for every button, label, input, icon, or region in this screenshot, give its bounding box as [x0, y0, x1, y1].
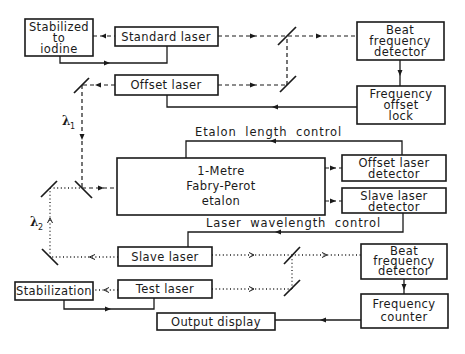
- block-frequency-counter: Frequency counter: [361, 294, 448, 328]
- svg-text:Output display: Output display: [171, 315, 261, 329]
- block-test-laser: Test laser: [118, 280, 212, 298]
- mirror-top-right: [280, 76, 296, 92]
- svg-text:Fabry-Perot: Fabry-Perot: [186, 179, 255, 193]
- link-beat-to-offsetlock: [398, 60, 403, 86]
- block-stabilized-to-iodine: Stabilized to iodine: [25, 19, 93, 56]
- etalon-length-control-label: Etalon length control: [195, 125, 342, 139]
- svg-text:Slave laser: Slave laser: [131, 250, 199, 264]
- link-offsetlock-to-offsetlaser: [167, 95, 357, 110]
- block-fabry-perot-etalon: 1-Metre Fabry-Perot etalon: [117, 158, 325, 215]
- svg-text:detector: detector: [374, 45, 426, 59]
- svg-text:detector: detector: [368, 167, 420, 181]
- beam-test-to-stabilization: [93, 288, 118, 293]
- svg-text:Frequency: Frequency: [372, 297, 435, 311]
- block-beat-frequency-detector-top: Beat frequency detector: [357, 22, 444, 60]
- svg-text:etalon: etalon: [202, 194, 241, 208]
- svg-text:1-Metre: 1-Metre: [197, 164, 244, 178]
- svg-text:counter: counter: [380, 310, 427, 324]
- link-standard-to-iodine: [93, 34, 115, 39]
- svg-text:detector: detector: [368, 200, 420, 214]
- svg-text:Stabilization: Stabilization: [16, 284, 92, 298]
- svg-text:1: 1: [70, 122, 75, 131]
- block-offset-laser-detector: Offset laser detector: [342, 155, 446, 181]
- svg-text:Test laser: Test laser: [135, 282, 194, 296]
- svg-text:iodine: iodine: [40, 42, 78, 56]
- beam-lambda1-to-etalon: [82, 186, 117, 191]
- block-output-display: Output display: [157, 313, 275, 330]
- block-slave-laser-detector: Slave laser detector: [342, 188, 446, 214]
- link-beat-to-counter: [402, 279, 407, 294]
- beam-offset-to-mirror: [82, 83, 115, 88]
- laser-wavelength-control-label: Laser wavelength control: [206, 216, 381, 230]
- block-slave-laser: Slave laser: [118, 247, 212, 266]
- block-stabilization: Stabilization: [15, 282, 93, 300]
- mirror-lambda2-lower: [42, 249, 58, 265]
- svg-text:2: 2: [38, 223, 43, 232]
- block-standard-laser: Standard laser: [115, 27, 218, 46]
- beam-splitter-etalon: [75, 181, 92, 198]
- beam-lambda1-down: [80, 85, 85, 188]
- svg-text:Standard laser: Standard laser: [121, 30, 211, 44]
- block-beat-frequency-detector-bottom: Beat frequency detector: [361, 244, 447, 279]
- lambda2-label: λ 2: [30, 215, 43, 232]
- beam-test-to-beat: [212, 255, 292, 292]
- beam-splitter-bottom: [284, 247, 300, 264]
- beam-offset-to-beat: [218, 36, 287, 88]
- link-counter-to-display: [275, 318, 361, 323]
- block-frequency-offset-lock: Frequency offset lock: [357, 86, 445, 124]
- beam-etalon-to-detectors: [325, 166, 342, 204]
- block-offset-laser: Offset laser: [115, 75, 218, 95]
- svg-text:detector: detector: [378, 264, 430, 278]
- svg-text:lock: lock: [389, 109, 414, 123]
- lambda1-label: λ 1: [62, 114, 75, 131]
- mirror-bottom-right: [284, 280, 300, 296]
- block-diagram: λ 1 λ 2 Etalon length control Laser wave…: [0, 0, 465, 354]
- mirror-lambda2-upper: [41, 181, 57, 197]
- svg-text:Offset laser: Offset laser: [130, 78, 201, 92]
- beam-slave-to-beat: [212, 253, 361, 258]
- beam-lambda2-path: [48, 188, 119, 260]
